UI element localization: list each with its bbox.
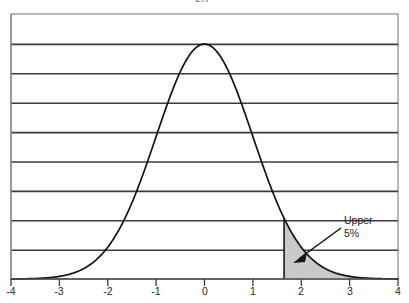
x-tick-label: -4 bbox=[0, 285, 23, 297]
x-tick-label: -3 bbox=[47, 285, 71, 297]
x-tick-label: -1 bbox=[144, 285, 168, 297]
normal-distribution-chart bbox=[0, 0, 409, 303]
x-tick-label: 3 bbox=[338, 285, 362, 297]
annotation-label-line2: 5% bbox=[344, 227, 359, 239]
x-tick-label: -2 bbox=[96, 285, 120, 297]
plot-background bbox=[11, 14, 398, 279]
annotation-label-line1: Upper bbox=[344, 214, 373, 226]
x-tick-label: 4 bbox=[386, 285, 409, 297]
x-tick-label: 2 bbox=[289, 285, 313, 297]
x-tick-label: 1 bbox=[241, 285, 265, 297]
x-tick-label: 0 bbox=[193, 285, 217, 297]
